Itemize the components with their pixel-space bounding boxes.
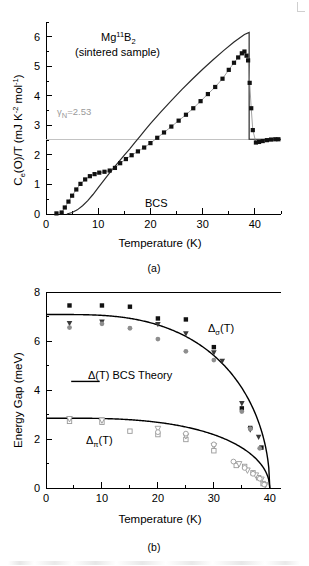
marker-filled-square [97, 171, 101, 175]
marker-filled-square [246, 58, 250, 62]
marker-filled-square [60, 210, 64, 214]
marker-filled-square [113, 166, 117, 170]
marker-filled-square [54, 211, 58, 215]
marker-grey-circle [248, 426, 253, 431]
marker-filled-square [130, 153, 134, 157]
marker-open-circle [257, 476, 262, 481]
marker-filled-square [78, 182, 82, 186]
marker-filled-square [142, 145, 146, 149]
marker-open-circle [231, 459, 236, 464]
marker-grey-circle [67, 325, 72, 330]
panel-b-axes [46, 292, 281, 488]
marker-filled-square [232, 61, 236, 65]
marker-open-square [128, 429, 132, 433]
marker-open-circle [251, 471, 256, 476]
panel-b-sigma-label: Δσ(T) [208, 322, 234, 337]
y-tick-label: 0 [34, 482, 40, 494]
panel-b-y-axis-title: Energy Gap (meV) [12, 352, 24, 448]
x-tick-label: 40 [249, 218, 261, 230]
marker-grey-circle [156, 337, 161, 342]
marker-filled-square [242, 49, 246, 53]
y-tick-label: 1 [34, 178, 40, 190]
marker-filled-square [213, 85, 217, 89]
marker-filled-square [184, 317, 188, 321]
marker-filled-square [227, 68, 231, 72]
marker-filled-square [124, 157, 128, 161]
marker-filled-square [70, 194, 74, 198]
marker-open-circle [211, 442, 216, 447]
marker-open-circle [156, 430, 161, 435]
marker-filled-square [128, 305, 132, 309]
panel-a-gamma-annotation: γN=2.53 [57, 106, 91, 120]
marker-filled-square [236, 55, 240, 59]
y-tick-label: 4 [34, 384, 40, 396]
axis-frame [46, 292, 281, 488]
panel-a-y-axis-title: Ce(O)/T (mJ K-2 mol-1) [11, 74, 27, 185]
panel-a-svg: 010203040 0123456 Mg11B2 (sintered sampl… [0, 0, 309, 280]
marker-grey-circle [128, 326, 133, 331]
x-tick-label: 20 [152, 492, 164, 504]
data-connector [56, 52, 278, 214]
x-tick-label: 10 [92, 218, 104, 230]
marker-filled-triangle [256, 435, 262, 440]
marker-filled-triangle [239, 401, 245, 406]
marker-filled-square [100, 303, 104, 307]
marker-open-circle [262, 482, 267, 487]
marker-filled-square [269, 137, 273, 141]
panel-b-pi-label: Δπ(T) [86, 434, 113, 449]
panel-b-x-axis-title: Temperature (K) [118, 513, 201, 525]
panel-a-x-tick-labels: 010203040 [43, 218, 261, 230]
marker-open-circle [183, 431, 188, 436]
marker-grey-circle [100, 321, 105, 326]
marker-filled-square [108, 168, 112, 172]
x-tick-label: 0 [43, 492, 49, 504]
panel-a-y-tick-labels: 0123456 [34, 31, 40, 220]
panel-a-connector-line [56, 52, 278, 214]
y-tick-label: 8 [34, 286, 40, 298]
marker-filled-square [88, 174, 92, 178]
marker-filled-square [67, 303, 71, 307]
marker-filled-square [102, 170, 106, 174]
panel-a-x-axis-title: Temperature (K) [118, 237, 201, 249]
marker-grey-circle [239, 409, 244, 414]
marker-filled-square [257, 140, 261, 144]
marker-filled-square [66, 199, 70, 203]
marker-filled-square [249, 106, 253, 110]
marker-filled-square [148, 141, 152, 145]
x-tick-label: 20 [144, 218, 156, 230]
marker-filled-square [191, 106, 195, 110]
marker-filled-square [74, 187, 78, 191]
panel-b-caption: (b) [148, 541, 161, 553]
panel-b-energy-gap: 010203040 02468 Δ(T) BCS Theory Δσ(T) Δπ… [0, 270, 309, 566]
y-tick-label: 5 [34, 60, 40, 72]
x-tick-label: 30 [208, 492, 220, 504]
marker-open-circle [242, 466, 247, 471]
panel-a-sample-note: (sintered sample) [75, 46, 160, 58]
marker-filled-square [198, 99, 202, 103]
marker-filled-square [63, 205, 67, 209]
x-tick-label: 10 [96, 492, 108, 504]
marker-filled-square [155, 136, 159, 140]
panel-b-data-points [67, 303, 268, 488]
y-tick-label: 3 [34, 119, 40, 131]
marker-filled-square [265, 138, 269, 142]
marker-filled-square [162, 130, 166, 134]
figure-page: 010203040 0123456 Mg11B2 (sintered sampl… [0, 0, 309, 566]
marker-filled-square [118, 161, 122, 165]
marker-filled-square [156, 316, 160, 320]
marker-filled-square [276, 137, 280, 141]
panel-a-sample-label: Mg11B2 [101, 30, 136, 46]
marker-filled-square [261, 139, 265, 143]
page-bottom-text-smudge [8, 561, 300, 565]
panel-b-svg: 010203040 02468 Δ(T) BCS Theory Δσ(T) Δπ… [0, 270, 309, 566]
marker-filled-square [184, 113, 188, 117]
marker-filled-square [244, 54, 248, 58]
y-tick-label: 6 [34, 31, 40, 43]
panel-a-bcs-label: BCS [145, 197, 168, 209]
x-tick-label: 30 [197, 218, 209, 230]
marker-filled-square [248, 81, 252, 85]
marker-grey-circle [257, 446, 262, 451]
y-tick-label: 4 [34, 90, 40, 102]
panel-b-legend-label: Δ(T) BCS Theory [88, 369, 173, 381]
marker-filled-square [92, 172, 96, 176]
